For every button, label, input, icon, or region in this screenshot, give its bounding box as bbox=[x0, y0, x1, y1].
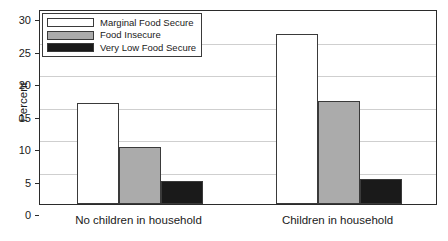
y-tick-label: 10 bbox=[5, 145, 31, 156]
chart-figure: Percent 051015202530 No children in hous… bbox=[0, 0, 448, 241]
legend-item-label: Food Insecure bbox=[100, 30, 161, 40]
y-tick-label: 25 bbox=[5, 47, 31, 58]
gridline bbox=[40, 76, 436, 77]
bar bbox=[318, 101, 360, 204]
legend-item[interactable]: Very Low Food Secure bbox=[47, 42, 196, 53]
chart-legend: Marginal Food SecureFood InsecureVery Lo… bbox=[42, 13, 202, 57]
legend-item[interactable]: Marginal Food Secure bbox=[47, 17, 196, 28]
bar bbox=[119, 147, 161, 204]
legend-swatch bbox=[47, 43, 94, 52]
x-category-label: No children in household bbox=[75, 214, 202, 226]
legend-item[interactable]: Food Insecure bbox=[47, 30, 196, 41]
legend-swatch bbox=[47, 31, 94, 40]
bar bbox=[276, 34, 318, 204]
bar bbox=[360, 179, 402, 204]
legend-swatch bbox=[47, 18, 94, 27]
y-tick-mark bbox=[35, 215, 39, 216]
y-tick-label: 30 bbox=[5, 15, 31, 26]
y-tick-label: 20 bbox=[5, 80, 31, 91]
y-tick-label: 5 bbox=[5, 177, 31, 188]
legend-item-label: Marginal Food Secure bbox=[100, 18, 193, 28]
legend-item-label: Very Low Food Secure bbox=[100, 43, 196, 53]
y-tick-label: 15 bbox=[5, 112, 31, 123]
y-axis: 051015202530 bbox=[0, 10, 39, 205]
x-category-label: Children in household bbox=[282, 214, 393, 226]
chart-title-remnant bbox=[0, 0, 448, 4]
bar bbox=[77, 103, 119, 204]
bar bbox=[161, 181, 203, 204]
y-tick-label: 0 bbox=[5, 210, 31, 221]
